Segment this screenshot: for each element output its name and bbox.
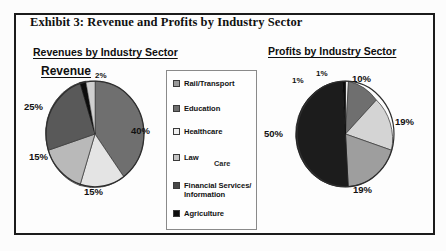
revenue-series-label: Revenue [41,64,91,78]
legend-swatch-icon [173,105,180,112]
legend-item-label: Financial Services/ Information [184,181,253,199]
legend-item-label: Education [184,104,220,113]
legend-item-label: Rail/Transport [184,79,234,88]
legend-item-label: Agriculture [184,209,224,218]
profits-label-1-left: 1% [292,76,304,85]
legend-item-financial-services[interactable]: Financial Services/ Information [173,181,253,199]
exhibit-page: Exhibit 3: Revenue and Profits by Indust… [0,0,446,251]
revenue-label-15-law: 15% [29,151,48,162]
profits-pie-chart [295,79,396,189]
legend-item-agriculture[interactable]: Agriculture [173,209,224,218]
profits-label-19-healthcare: 19% [353,184,372,195]
legend-item-law[interactable]: Law [173,153,199,162]
legend-item-healthcare[interactable]: Healthcare [173,127,222,136]
profits-label-1-right: 1% [316,69,328,78]
revenue-label-25: 25% [24,101,43,112]
legend-item-education[interactable]: Education [173,104,220,113]
legend-swatch-icon [173,80,180,87]
profits-label-50: 50% [264,128,283,139]
profits-label-19-education: 19% [395,116,414,127]
legend-item-label: Healthcare [184,127,222,136]
legend-item-rail-transport[interactable]: Rail/Transport [173,79,234,88]
legend-item-label: Law [184,153,199,162]
legend-swatch-icon [173,210,180,217]
legend-box: Rail/Transport Education Healthcare Law … [166,70,257,230]
profits-chart-heading: Profits by Industry Sector [268,45,396,57]
revenue-label-40: 40% [131,125,150,136]
legend-swatch-icon [173,154,180,161]
profits-label-10: 10% [352,73,371,84]
stray-care-text: Care [214,159,230,168]
page-title: Exhibit 3: Revenue and Profits by Indust… [30,15,302,30]
revenue-label-15-healthcare: 15% [84,186,103,197]
revenue-label-2: 2% [95,71,107,80]
legend-swatch-icon [173,182,180,189]
revenue-chart-heading: Revenues by Industry Sector [33,46,178,58]
legend-swatch-icon [173,128,180,135]
